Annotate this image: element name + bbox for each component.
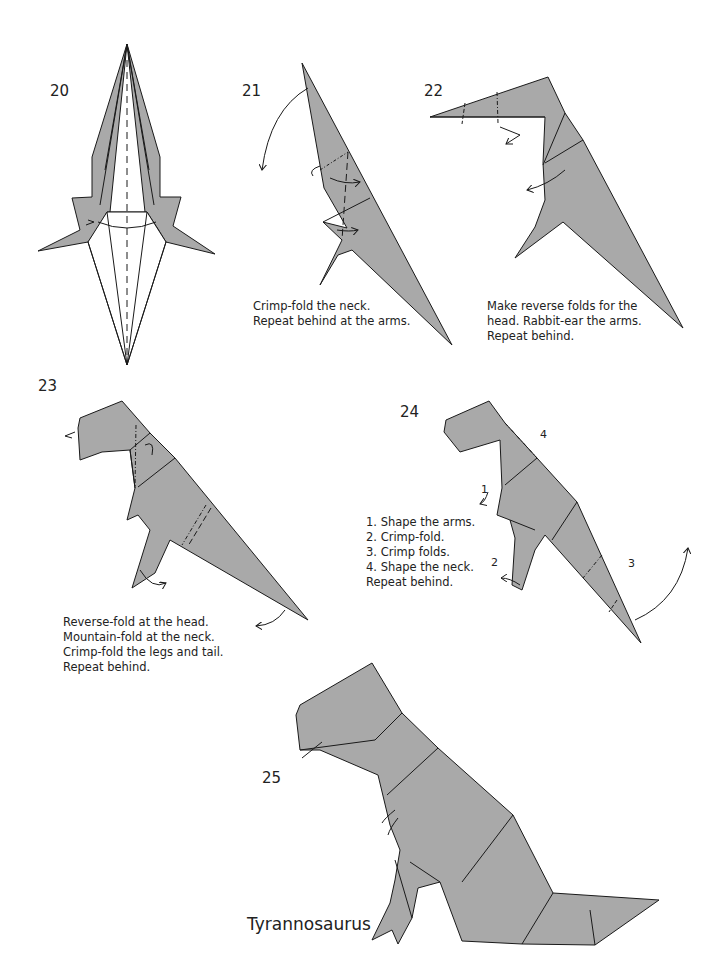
step-23-caption: Reverse-fold at the head. Mountain-fold …	[63, 615, 223, 675]
caption-line: Make reverse folds for the	[487, 299, 642, 314]
step-22-diagram	[430, 77, 683, 328]
step-24-number: 24	[400, 403, 419, 421]
caption-line: 4. Shape the neck.	[366, 560, 475, 575]
caption-line: Mountain-fold at the neck.	[63, 630, 223, 645]
caption-line: Crimp-fold the legs and tail.	[63, 645, 223, 660]
final-model-title: Tyrannosaurus	[247, 914, 371, 934]
caption-line: 3. Crimp folds.	[366, 545, 475, 560]
step-25-number: 25	[262, 769, 281, 787]
step-22-caption: Make reverse folds for the head. Rabbit-…	[487, 299, 642, 344]
caption-line: Reverse-fold at the head.	[63, 615, 223, 630]
step-23-diagram	[65, 401, 308, 626]
step-21-caption: Crimp-fold the neck. Repeat behind at th…	[253, 299, 410, 329]
step-24-marker-4: 4	[540, 428, 547, 441]
caption-line: 2. Crimp-fold.	[366, 530, 475, 545]
step-20-number: 20	[50, 82, 69, 100]
step-24-diagram	[444, 401, 688, 643]
step-22-number: 22	[424, 82, 443, 100]
caption-line: Repeat behind.	[366, 575, 475, 590]
step-23-number: 23	[38, 377, 57, 395]
step-24-marker-1: 1	[481, 483, 488, 496]
step-24-caption: 1. Shape the arms. 2. Crimp-fold. 3. Cri…	[366, 515, 475, 590]
step-25-diagram	[296, 663, 659, 945]
caption-line: Repeat behind.	[487, 329, 642, 344]
caption-line: Repeat behind.	[63, 660, 223, 675]
step-24-marker-2: 2	[491, 556, 498, 569]
caption-line: 1. Shape the arms.	[366, 515, 475, 530]
caption-line: Repeat behind at the arms.	[253, 314, 410, 329]
caption-line: Crimp-fold the neck.	[253, 299, 410, 314]
origami-diagrams	[0, 0, 724, 977]
step-21-number: 21	[242, 82, 261, 100]
step-24-marker-3: 3	[628, 557, 635, 570]
caption-line: head. Rabbit-ear the arms.	[487, 314, 642, 329]
